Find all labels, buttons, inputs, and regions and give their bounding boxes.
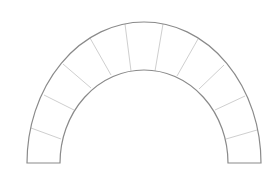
arch-diagram xyxy=(0,0,275,180)
voussoir-joints xyxy=(31,24,257,139)
arch-outline xyxy=(27,22,261,163)
voussoir-joint xyxy=(199,65,224,89)
voussoir-joint xyxy=(31,128,61,139)
voussoir-joint xyxy=(63,64,91,88)
voussoir-joint xyxy=(215,96,245,110)
voussoir-joint xyxy=(177,39,198,76)
voussoir-joint xyxy=(125,24,131,71)
voussoir-joint xyxy=(155,24,163,71)
voussoir-joint xyxy=(44,95,74,110)
voussoir-joint xyxy=(226,130,257,139)
voussoir-joint xyxy=(90,38,111,75)
